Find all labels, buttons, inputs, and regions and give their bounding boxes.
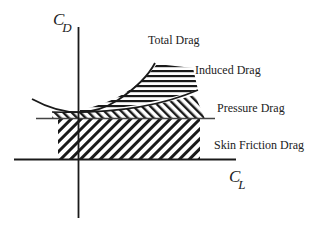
total-drag-label: Total Drag (148, 33, 199, 47)
pressure-drag-label: Pressure Drag (217, 101, 285, 115)
y-axis-label-sub: D (61, 20, 72, 35)
x-axis-label: CL (229, 167, 246, 192)
y-axis-label: CD (53, 10, 72, 35)
x-axis-label-sub: L (237, 177, 245, 192)
skin-friction-drag-label: Skin Friction Drag (214, 138, 304, 152)
induced-drag-label: Induced Drag (195, 63, 261, 77)
drag-polar-diagram: CD CL Total Drag Induced Drag Pressure D… (0, 0, 319, 229)
